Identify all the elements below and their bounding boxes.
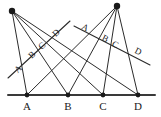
left-apex-dot — [9, 8, 15, 14]
base-point-D-label: D — [134, 100, 142, 112]
base-point-B-dot — [66, 93, 71, 98]
geometry-figure: ABCD ABCDABCD — [0, 0, 161, 117]
figure-canvas: ABCD ABCDABCD — [0, 0, 161, 117]
base-point-A-dot — [25, 93, 30, 98]
apex-points — [9, 3, 120, 14]
base-point-C-dot — [101, 93, 106, 98]
base-point-labels: ABCD — [23, 100, 142, 112]
right-transversal-label-A: A — [80, 21, 91, 33]
ray-right-to-A — [27, 6, 117, 95]
base-point-D-dot — [136, 93, 141, 98]
right-apex-dot — [114, 3, 120, 9]
ray-left-to-A — [12, 11, 27, 95]
left-transversal-label-D: D — [50, 27, 62, 39]
base-point-B-label: B — [64, 100, 71, 112]
base-point-A-label: A — [23, 100, 31, 112]
left-transversal-label-B: B — [26, 49, 37, 60]
right-transversal-label-D: D — [133, 45, 144, 57]
base-point-C-label: C — [99, 100, 106, 112]
